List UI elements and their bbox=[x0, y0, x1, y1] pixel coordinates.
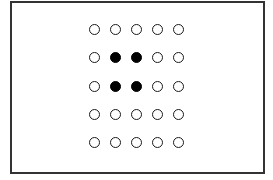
empty-dot-icon bbox=[152, 24, 163, 35]
empty-dot-icon bbox=[89, 81, 100, 92]
filled-dot-icon bbox=[131, 52, 142, 63]
empty-dot-icon bbox=[173, 52, 184, 63]
filled-dot-icon bbox=[131, 81, 142, 92]
empty-dot-icon bbox=[110, 109, 121, 120]
empty-dot-icon bbox=[131, 137, 142, 148]
empty-dot-icon bbox=[173, 81, 184, 92]
empty-dot-icon bbox=[110, 24, 121, 35]
filled-dot-icon bbox=[110, 52, 121, 63]
empty-dot-icon bbox=[89, 137, 100, 148]
empty-dot-icon bbox=[89, 109, 100, 120]
empty-dot-icon bbox=[152, 52, 163, 63]
empty-dot-icon bbox=[89, 24, 100, 35]
empty-dot-icon bbox=[173, 137, 184, 148]
empty-dot-icon bbox=[131, 24, 142, 35]
empty-dot-icon bbox=[131, 109, 142, 120]
empty-dot-icon bbox=[173, 109, 184, 120]
empty-dot-icon bbox=[152, 137, 163, 148]
filled-dot-icon bbox=[110, 81, 121, 92]
dot-grid bbox=[0, 0, 273, 180]
empty-dot-icon bbox=[110, 137, 121, 148]
empty-dot-icon bbox=[152, 109, 163, 120]
empty-dot-icon bbox=[152, 81, 163, 92]
empty-dot-icon bbox=[173, 24, 184, 35]
empty-dot-icon bbox=[89, 52, 100, 63]
